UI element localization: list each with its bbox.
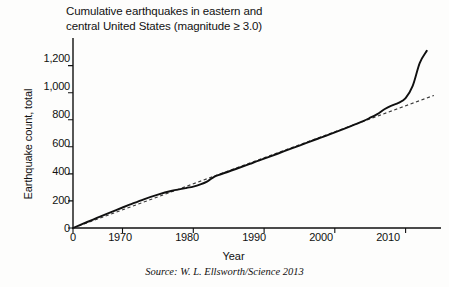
y-tick-marks bbox=[68, 66, 73, 228]
x-axis-title-text: Year bbox=[222, 250, 244, 262]
x-tick-marks bbox=[73, 228, 406, 233]
axis-group bbox=[68, 38, 441, 233]
x-axis-title: Year bbox=[0, 250, 449, 262]
axis-lines bbox=[73, 38, 441, 228]
earthquake-chart-figure: Cumulative earthquakes in eastern and ce… bbox=[0, 0, 449, 287]
source-note: Source: W. L. Ellsworth/Science 2013 bbox=[0, 266, 449, 277]
cumulative-count-line bbox=[73, 51, 427, 228]
plot-area bbox=[0, 0, 449, 287]
